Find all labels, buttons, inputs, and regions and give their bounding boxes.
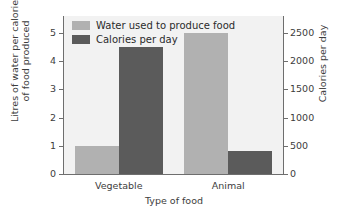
legend-label-water: Water used to produce food: [96, 20, 235, 31]
y-axis-right-title: Calories per day: [317, 4, 328, 124]
y-axis-right-tick-mark: [284, 89, 288, 90]
legend-label-calories: Calories per day: [96, 34, 178, 45]
y-axis-left-tick-label: 1: [50, 141, 56, 151]
y-axis-left-tick-mark: [59, 174, 63, 175]
legend-swatch-calories-icon: [72, 35, 90, 44]
y-axis-left-tick-mark: [59, 33, 63, 34]
bar-vegetable-water: [75, 146, 119, 174]
y-axis-left-tick-mark: [59, 61, 63, 62]
y-axis-left-tick-label: 0: [50, 169, 56, 179]
y-axis-right-tick-mark: [284, 118, 288, 119]
y-axis-left-title-line1: Litres of water per calorie: [9, 0, 20, 122]
y-axis-left-tick-label: 4: [50, 56, 56, 66]
bar-animal-calories: [228, 151, 272, 174]
y-axis-left-tick-mark: [59, 146, 63, 147]
y-axis-left-spine: [63, 16, 64, 175]
y-axis-right-tick-label: 0: [290, 169, 296, 179]
legend-item-water: Water used to produce food: [72, 19, 235, 32]
y-axis-left-tick-label: 3: [50, 84, 56, 94]
bar-animal-water: [184, 33, 228, 174]
y-axis-right-tick-label: 500: [290, 141, 308, 151]
legend-item-calories: Calories per day: [72, 33, 235, 46]
legend-swatch-water-icon: [72, 21, 90, 30]
x-axis-title: Type of food: [0, 195, 348, 206]
y-axis-left-tick-label: 5: [50, 28, 56, 38]
x-axis-category-label: Animal: [178, 180, 278, 191]
chart-legend: Water used to produce food Calories per …: [72, 19, 235, 47]
y-axis-right-tick-label: 1000: [290, 113, 314, 123]
x-axis-spine: [63, 174, 284, 175]
y-axis-left-tick-mark: [59, 118, 63, 119]
y-axis-right-tick-mark: [284, 61, 288, 62]
y-axis-right-tick-label: 1500: [290, 84, 314, 94]
bar-vegetable-calories: [119, 47, 163, 174]
y-axis-right-tick-mark: [284, 174, 288, 175]
x-axis-category-label: Vegetable: [69, 180, 169, 191]
y-axis-right-tick-label: 2500: [290, 28, 314, 38]
y-axis-left-tick-label: 2: [50, 113, 56, 123]
bar-chart-figure: 012345 05001000150020002500 VegetableAni…: [0, 0, 348, 214]
y-axis-right-tick-mark: [284, 33, 288, 34]
y-axis-right-tick-label: 2000: [290, 56, 314, 66]
y-axis-left-tick-mark: [59, 89, 63, 90]
y-axis-left-title: Litres of water per calorie of food prod…: [9, 0, 31, 131]
y-axis-right-tick-mark: [284, 146, 288, 147]
y-axis-right-spine: [283, 16, 284, 175]
y-axis-left-title-line2: of food produced: [20, 21, 31, 102]
